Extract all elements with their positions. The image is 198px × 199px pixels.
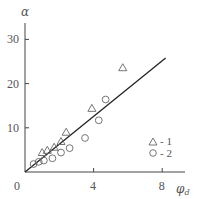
circle-marker-icon [95,117,102,124]
x-tick-label: 8 [159,179,165,193]
y-ticks: 102030 [7,32,29,134]
triangle-marker-icon [119,64,127,71]
origin-label: 0 [14,179,20,193]
circle-marker-icon [102,96,109,103]
y-tick-label: 30 [7,32,19,46]
x-tick-label: 4 [90,179,96,193]
y-tick-label: 10 [7,121,19,135]
triangle-marker-icon [62,128,70,135]
legend-label-2: - 2 [160,147,172,159]
legend-label-1: - 1 [160,135,172,147]
y-tick-label: 20 [7,77,19,91]
legend: - 1 - 2 [149,135,172,159]
x-axis-label: φd [176,182,190,197]
circle-marker-icon [82,135,89,142]
y-axis-label: α [21,5,29,19]
circle-marker-icon [58,149,65,156]
triangle-marker-icon [88,104,96,111]
circle-marker-icon [66,145,73,152]
legend-triangle-icon [149,138,157,145]
circle-marker-icon [49,155,56,162]
scatter-chart: 48 102030 0 α φd - 1 - 2 [0,0,198,199]
data-markers [30,64,127,168]
legend-circle-icon [150,150,157,157]
x-axis-label-subscript: d [184,188,189,197]
